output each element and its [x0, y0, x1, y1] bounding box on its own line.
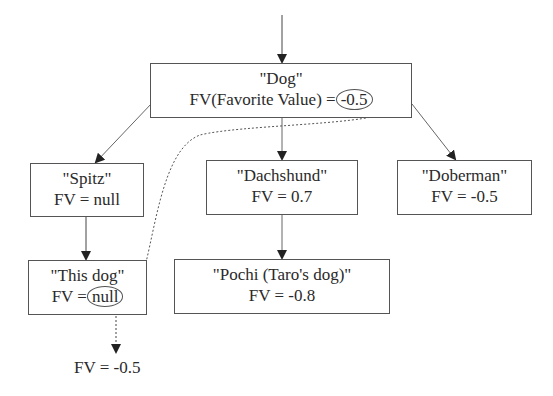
- node-dachshund-fv: FV = 0.7: [207, 186, 357, 207]
- node-dachshund: "Dachshund" FV = 0.7: [206, 160, 358, 215]
- result-fv: FV = -0.5: [74, 358, 140, 378]
- node-spitz-fv: FV = null: [31, 189, 143, 210]
- node-dog-fv-value: -0.5: [336, 89, 373, 110]
- node-pochi-fv: FV = -0.8: [175, 285, 389, 306]
- node-doberman-name: "Doberman": [398, 165, 531, 186]
- node-dog-fv: FV(Favorite Value) =-0.5: [151, 89, 411, 110]
- node-pochi: "Pochi (Taro's dog)" FV = -0.8: [174, 259, 390, 314]
- edge-dog-to-spitz: [96, 103, 152, 162]
- node-this-dog-fv-label: FV =: [52, 287, 87, 306]
- edge-dog-to-doberman: [412, 104, 455, 159]
- node-dog: "Dog" FV(Favorite Value) =-0.5: [150, 63, 412, 118]
- node-pochi-name: "Pochi (Taro's dog)": [175, 264, 389, 285]
- node-this-dog-name: "This dog": [29, 265, 146, 286]
- node-dog-fv-label: FV(Favorite Value) =: [189, 90, 335, 109]
- node-spitz: "Spitz" FV = null: [30, 163, 144, 217]
- node-dog-name: "Dog": [151, 68, 411, 89]
- node-doberman-fv: FV = -0.5: [398, 186, 531, 207]
- node-this-dog-fv-value: null: [87, 286, 123, 307]
- node-this-dog: "This dog" FV =null: [28, 260, 147, 315]
- node-doberman: "Doberman" FV = -0.5: [397, 160, 532, 215]
- node-dachshund-name: "Dachshund": [207, 165, 357, 186]
- node-spitz-name: "Spitz": [31, 168, 143, 189]
- node-this-dog-fv: FV =null: [29, 286, 146, 307]
